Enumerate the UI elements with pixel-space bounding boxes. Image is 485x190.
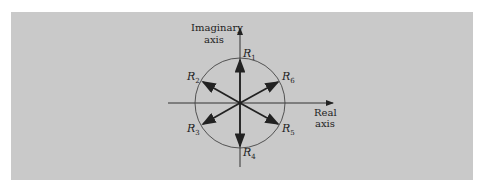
label-r5: R5 (281, 122, 295, 137)
label-r4: R4 (242, 146, 256, 161)
phasor-r6 (240, 82, 278, 103)
label-r1: R1 (242, 47, 256, 62)
label-r6: R6 (281, 70, 295, 85)
label-r3: R3 (186, 122, 200, 137)
imaginary-axis-label: Imaginary (191, 22, 243, 33)
phasor-diagram: Imaginary axis Real axis R1 R2 R3 R4 R5 … (0, 0, 485, 190)
label-r2: R2 (186, 70, 200, 85)
phasor-r3 (203, 103, 240, 124)
real-axis-label: Real (314, 107, 337, 118)
imaginary-axis-label-2: axis (204, 34, 224, 45)
phasor-r2 (203, 82, 240, 103)
real-axis-label-2: axis (315, 118, 335, 129)
phasor-r5 (240, 103, 278, 124)
